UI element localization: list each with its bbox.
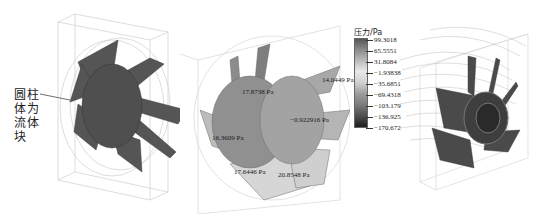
colorbar-tick-2: 65.5551 — [374, 47, 397, 55]
annotation-line-2: 体为 — [14, 102, 40, 116]
colorbar-tick-3: 31.8084 — [374, 58, 397, 66]
colorbar-tick-1: 99.3018 — [374, 36, 397, 44]
annotation-line-4: 块 — [14, 130, 40, 144]
pressure-label-6: 20.8548 Pa — [278, 171, 310, 179]
panel-streamlines — [400, 0, 554, 214]
colorbar-tick-9: −170.672 — [374, 124, 401, 132]
colorbar-tick-8: −136.925 — [374, 113, 401, 121]
annotation-line-1: 圆柱 — [14, 88, 40, 102]
pressure-label-2: 14.0449 Pa — [322, 76, 354, 84]
pressure-label-5: 17.6446 Pa — [234, 168, 266, 176]
streamlines-drawing — [400, 0, 554, 214]
colorbar-tick-7: −103.179 — [374, 102, 401, 110]
colorbar-tick-4: −1.93838 — [374, 69, 401, 77]
pressure-label-3: −0.922916 Pa — [290, 116, 329, 124]
fluid-cylinder-annotation: 圆柱 体为 流体 块 — [14, 88, 40, 144]
annotation-line-3: 流体 — [14, 116, 40, 130]
colorbar-tick-5: −35.6851 — [374, 80, 401, 88]
panel-pressure-contour: 17.8738 Pa 14.0449 Pa −0.922916 Pa 16.36… — [180, 0, 350, 214]
colorbar-tick-6: −69.4318 — [374, 91, 401, 99]
pressure-contour-drawing — [180, 0, 350, 214]
pressure-label-1: 17.8738 Pa — [242, 88, 274, 96]
pressure-label-4: 16.3609 Pa — [212, 134, 244, 142]
